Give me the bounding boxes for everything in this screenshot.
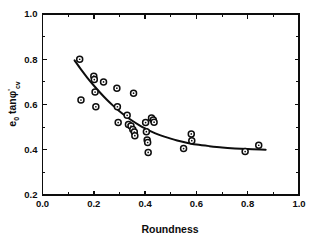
y-tick-label-3: 0.8 [24, 54, 37, 65]
scatter-plot: 0.00.20.40.60.81.0 0.20.40.60.81.0 Round… [0, 0, 313, 241]
y-axis-label-text: e0 tanφ'cv [6, 81, 21, 127]
x-axis-ticks [43, 14, 300, 195]
data-point-core-18 [146, 131, 148, 133]
figure-container: 0.00.20.40.60.81.0 0.20.40.60.81.0 Round… [0, 0, 313, 241]
fitted-trend-curve [75, 60, 266, 149]
data-point-core-8 [117, 106, 119, 108]
data-point-core-24 [153, 121, 155, 123]
x-tick-label-4: 0.8 [241, 198, 254, 209]
y-tick-label-0: 0.2 [24, 189, 37, 200]
x-tick-label-1: 0.2 [87, 198, 100, 209]
data-point-core-14 [133, 92, 135, 94]
data-point-core-1 [80, 99, 82, 101]
data-point-core-10 [126, 115, 128, 117]
data-points [77, 56, 262, 155]
data-point-core-3 [93, 79, 95, 81]
data-point-core-21 [147, 152, 149, 154]
x-tick-label-3: 0.6 [190, 198, 203, 209]
data-point-core-7 [116, 87, 118, 89]
plot-frame [43, 14, 300, 195]
data-point-core-25 [183, 148, 185, 150]
data-point-core-4 [94, 91, 96, 93]
y-axis-tick-labels: 0.20.40.60.81.0 [24, 8, 38, 200]
data-point-core-6 [103, 81, 105, 83]
y-tick-label-2: 0.6 [24, 99, 37, 110]
trend-curve-path [75, 60, 266, 149]
data-point-core-27 [191, 140, 193, 142]
data-point-core-26 [190, 133, 192, 135]
y-axis-label-subscript-cv: cv [14, 81, 21, 89]
y-axis-ticks [43, 14, 300, 195]
x-axis-tick-labels: 0.00.20.40.60.81.0 [36, 198, 306, 209]
y-axis-label-tanphi: tanφ [6, 90, 18, 117]
data-point-core-16 [134, 135, 136, 137]
data-point-core-0 [79, 58, 81, 60]
plot-frame-rect [43, 14, 300, 195]
data-point-core-20 [147, 142, 149, 144]
x-tick-label-2: 0.4 [138, 198, 152, 209]
x-tick-label-0: 0.0 [36, 198, 49, 209]
y-tick-label-4: 1.0 [24, 8, 37, 19]
data-point-core-17 [145, 122, 147, 124]
y-tick-label-1: 0.4 [24, 144, 38, 155]
data-point-core-28 [244, 151, 246, 153]
x-tick-label-5: 1.0 [292, 198, 305, 209]
data-point-core-29 [258, 144, 260, 146]
y-axis-label: e0 tanφ'cv [6, 81, 21, 127]
x-axis-label: Roundness [141, 223, 198, 235]
data-point-core-5 [95, 106, 97, 108]
y-axis-label-prime: ' [7, 89, 14, 91]
data-point-core-9 [117, 122, 119, 124]
